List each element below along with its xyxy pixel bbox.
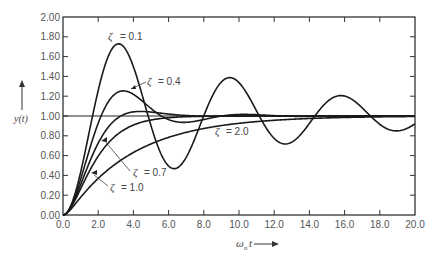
step-response-chart: 0.02.04.06.08.010.012.014.016.018.020.00… [0, 0, 437, 260]
arrow-up-icon [19, 80, 25, 87]
x-tick-label: 14.0 [300, 219, 320, 230]
x-tick-label: 16.0 [335, 219, 355, 230]
zeta-symbol: ζ [108, 30, 114, 43]
y-tick-label: 0.20 [41, 190, 61, 201]
annotation-zeta-2.0: ζ = 2.0 [215, 125, 249, 138]
y-tick-label: 0.60 [41, 150, 61, 161]
curve-zeta-0.4 [63, 91, 415, 215]
zeta-symbol: ζ [147, 75, 153, 88]
y-tick-label: 2.00 [41, 12, 61, 23]
x-tick-label: 12.0 [264, 219, 284, 230]
x-tick-label: 8.0 [197, 219, 211, 230]
y-tick-label: 0.80 [41, 130, 61, 141]
annotation-zeta-0.1: ζ = 0.1 [108, 30, 143, 43]
y-tick-label: 1.20 [41, 91, 61, 102]
leader-line [104, 140, 130, 171]
arrowhead-icon [131, 85, 136, 89]
y-axis-title: y(t) [13, 113, 29, 125]
axis-tick-labels: 0.02.04.06.08.010.012.014.016.018.020.00… [41, 12, 426, 231]
annotation-label: = 2.0 [226, 126, 249, 137]
zeta-symbol: ζ [110, 181, 116, 194]
arrow-right-icon [272, 241, 279, 247]
x-tick-label: 20.0 [405, 219, 425, 230]
zeta-symbol: ζ [133, 166, 139, 179]
annotation-label: = 1.0 [121, 182, 144, 193]
y-axis-label: y(t) [13, 80, 29, 125]
annotation-label: = 0.4 [158, 76, 181, 87]
y-tick-label: 1.80 [41, 31, 61, 42]
y-tick-label: 1.60 [41, 51, 61, 62]
annotation-label: = 0.1 [120, 31, 143, 42]
arrowhead-icon [91, 170, 97, 175]
x-axis-label: ω n t [236, 237, 279, 252]
x-tick-label: 0.0 [56, 219, 70, 230]
y-tick-label: 0.00 [41, 210, 61, 221]
y-tick-label: 1.00 [41, 111, 61, 122]
x-axis-subscript: n [244, 244, 248, 252]
x-tick-label: 6.0 [162, 219, 176, 230]
x-tick-label: 4.0 [126, 219, 140, 230]
zeta-symbol: ζ [215, 125, 221, 138]
x-axis-omega: ω [236, 237, 244, 249]
x-axis-t: t [249, 237, 253, 249]
y-tick-label: 1.40 [41, 71, 61, 82]
y-tick-label: 0.40 [41, 170, 61, 181]
x-tick-label: 2.0 [91, 219, 105, 230]
annotation-label: = 0.7 [144, 167, 167, 178]
x-tick-label: 18.0 [370, 219, 390, 230]
x-tick-label: 10.0 [229, 219, 249, 230]
